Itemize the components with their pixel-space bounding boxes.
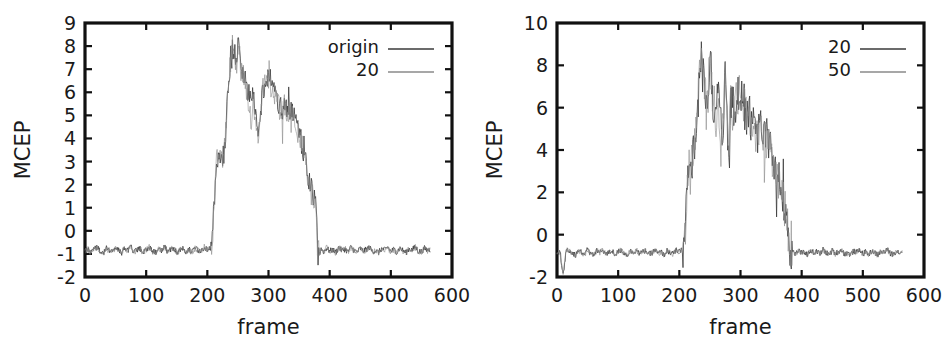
y-tick-label: 4 [64,127,76,149]
figure-container: 0100200300400500600-2-10123456789frameMC… [0,0,944,346]
x-axis-title: frame [709,315,771,339]
y-tick-label: 3 [64,151,76,173]
x-tick-label: 100 [128,284,164,306]
x-tick-label: 500 [845,284,881,306]
x-tick-label: 200 [189,284,225,306]
chart-svg: 0100200300400500600-20246810frameMCEP205… [472,0,944,346]
y-tick-label: 0 [536,224,548,246]
x-tick-label: 0 [551,284,563,306]
y-tick-label: 0 [64,220,76,242]
x-tick-label: 500 [373,284,409,306]
chart-panel-right: 0100200300400500600-20246810frameMCEP205… [472,0,944,346]
y-tick-label: -2 [529,266,548,288]
x-tick-label: 300 [722,284,758,306]
y-tick-label: -1 [57,243,76,265]
y-axis-title: MCEP [483,121,507,180]
legend-label: 50 [828,59,851,80]
x-tick-label: 600 [434,284,470,306]
y-tick-label: 9 [64,12,76,34]
y-tick-label: 4 [536,139,548,161]
y-tick-label: 1 [64,197,76,219]
y-tick-label: 2 [64,174,76,196]
y-tick-label: 6 [64,81,76,103]
y-tick-label: 10 [524,12,548,34]
legend-label: 20 [356,59,379,80]
x-tick-label: 100 [600,284,636,306]
y-tick-label: 7 [64,58,76,80]
y-tick-label: -2 [57,266,76,288]
x-tick-label: 400 [784,284,820,306]
x-tick-label: 300 [250,284,286,306]
y-tick-label: 8 [64,35,76,57]
chart-svg: 0100200300400500600-2-10123456789frameMC… [0,0,472,346]
x-tick-label: 600 [906,284,942,306]
legend-label: origin [328,36,379,57]
y-tick-label: 2 [536,181,548,203]
x-tick-label: 200 [661,284,697,306]
y-tick-label: 5 [64,104,76,126]
y-tick-label: 8 [536,54,548,76]
x-tick-label: 400 [312,284,348,306]
legend-label: 20 [828,36,851,57]
x-tick-label: 0 [79,284,91,306]
chart-panel-left: 0100200300400500600-2-10123456789frameMC… [0,0,472,346]
y-tick-label: 6 [536,97,548,119]
y-axis-title: MCEP [11,121,35,180]
x-axis-title: frame [237,315,299,339]
